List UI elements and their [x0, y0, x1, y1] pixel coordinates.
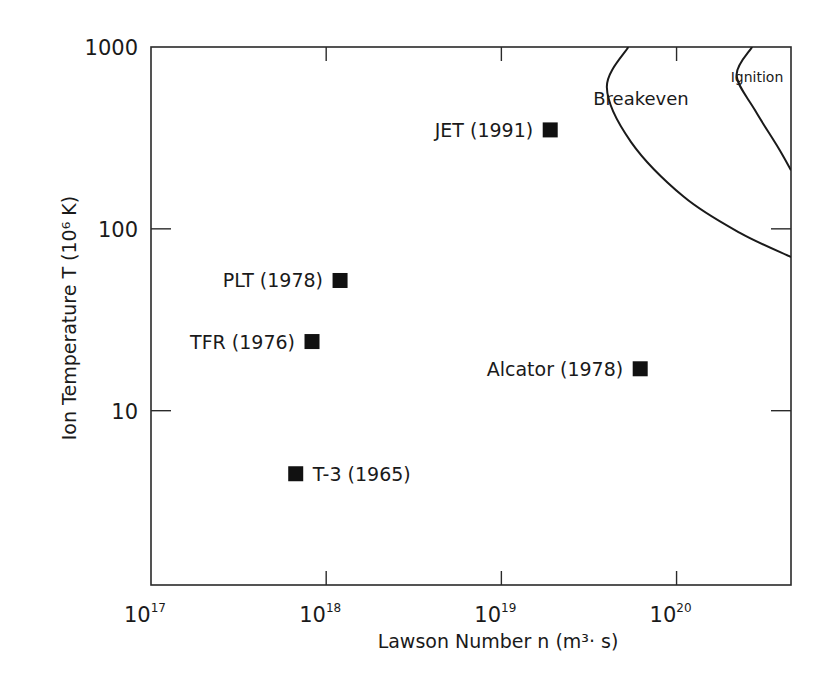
x-tick-label: 1020 [650, 601, 692, 627]
y-tick-label: 1000 [85, 36, 138, 60]
data-point: TFR (1976) [189, 331, 319, 353]
square-marker-icon [305, 334, 320, 349]
point-label: PLT (1978) [223, 269, 323, 291]
chart-canvas: JET (1991)PLT (1978)TFR (1976)Alcator (1… [0, 0, 826, 685]
square-marker-icon [633, 361, 648, 376]
point-label: T-3 (1965) [312, 463, 411, 485]
x-tick-label: 1017 [124, 601, 166, 627]
square-marker-icon [543, 122, 558, 137]
y-axis-title: Ion Temperature T (10⁶ K) [58, 196, 80, 440]
data-point: T-3 (1965) [288, 463, 411, 485]
data-points: JET (1991)PLT (1978)TFR (1976)Alcator (1… [189, 119, 648, 485]
point-label: TFR (1976) [189, 331, 295, 353]
y-tick-label: 100 [98, 218, 138, 242]
breakeven-label: Breakeven [593, 88, 688, 109]
y-tick-label: 10 [111, 400, 138, 424]
square-marker-icon [333, 273, 348, 288]
data-point: Alcator (1978) [487, 358, 648, 380]
x-tick-label: 1018 [299, 601, 341, 627]
ignition-curve [737, 47, 791, 170]
data-point: JET (1991) [434, 119, 558, 141]
x-tick-label: 1019 [474, 601, 516, 627]
square-marker-icon [288, 466, 303, 481]
ignition-label: Ignition [731, 69, 784, 85]
x-axis-title: Lawson Number n (m³· s) [378, 630, 619, 652]
data-point: PLT (1978) [223, 269, 348, 291]
point-label: Alcator (1978) [487, 358, 623, 380]
point-label: JET (1991) [434, 119, 533, 141]
